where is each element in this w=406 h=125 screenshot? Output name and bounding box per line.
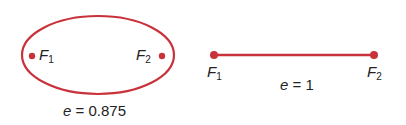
ellipse-focus2-dot xyxy=(159,53,165,59)
line-focus1-dot xyxy=(210,51,218,59)
line-focus2-label: F2 xyxy=(367,64,382,82)
line-eccentricity-label: e = 1 xyxy=(280,77,314,92)
ellipse-focus1-label: F1 xyxy=(39,47,54,65)
line-focus2-dot xyxy=(370,51,378,59)
line-focus1-label: F1 xyxy=(207,64,222,82)
diagram-canvas xyxy=(0,0,406,125)
ellipse-eccentricity-label: e = 0.875 xyxy=(63,103,126,118)
ellipse-focus2-label: F2 xyxy=(136,47,151,65)
ellipse-focus1-dot xyxy=(29,53,35,59)
